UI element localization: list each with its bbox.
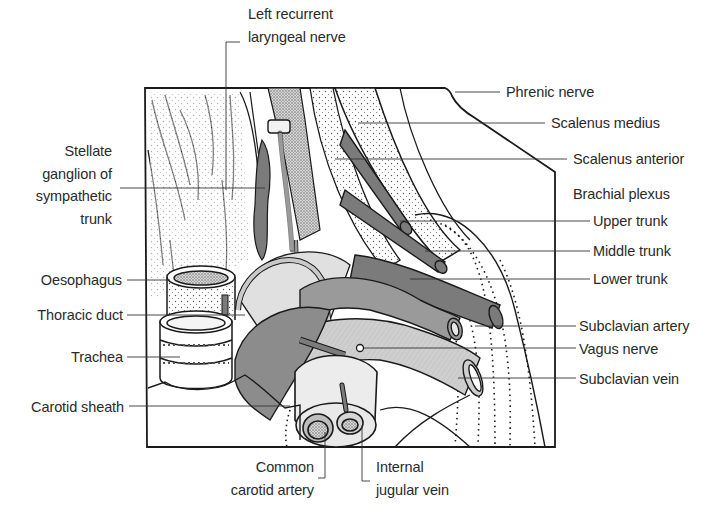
- label-line: laryngeal nerve: [248, 26, 346, 49]
- label-oesophagus: Oesophagus: [41, 269, 122, 291]
- label-trachea: Trachea: [71, 346, 123, 368]
- label-brachial-plexus: Brachial plexus: [573, 183, 670, 205]
- label-line: sympathetic: [36, 185, 112, 208]
- scalene-muscles: [310, 88, 470, 270]
- label-line: trunk: [36, 208, 112, 231]
- label-line: Left recurrent: [248, 3, 346, 26]
- label-line: ganglion of: [36, 163, 112, 186]
- label-line: Internal: [376, 456, 449, 479]
- label-line: carotid artery: [231, 479, 314, 502]
- trachea-shape: [160, 311, 232, 389]
- anatomy-figure: Left recurrent laryngeal nerve Stellate …: [0, 0, 710, 523]
- label-left-recurrent-laryngeal-nerve: Left recurrent laryngeal nerve: [248, 3, 346, 48]
- label-line: jugular vein: [376, 479, 449, 502]
- label-internal-jugular-vein: Internal jugular vein: [376, 456, 449, 501]
- label-carotid-sheath: Carotid sheath: [31, 396, 124, 418]
- label-upper-trunk: Upper trunk: [593, 210, 668, 232]
- label-scalenus-anterior: Scalenus anterior: [573, 148, 684, 170]
- label-common-carotid-artery: Common carotid artery: [231, 456, 314, 501]
- thoracic-duct-shape: [222, 295, 228, 315]
- label-line: Common: [231, 456, 314, 479]
- label-thoracic-duct: Thoracic duct: [37, 304, 123, 326]
- label-lower-trunk: Lower trunk: [593, 268, 668, 290]
- label-subclavian-artery: Subclavian artery: [579, 315, 689, 337]
- carotid-sheath-shape: [295, 356, 377, 448]
- label-scalenus-medius: Scalenus medius: [551, 112, 660, 134]
- label-vagus-nerve: Vagus nerve: [579, 338, 658, 360]
- label-line: Stellate: [36, 140, 112, 163]
- label-stellate-ganglion: Stellate ganglion of sympathetic trunk: [36, 140, 112, 230]
- vagus-node: [357, 345, 364, 352]
- label-subclavian-vein: Subclavian vein: [579, 368, 679, 390]
- label-middle-trunk: Middle trunk: [593, 240, 671, 262]
- label-phrenic-nerve: Phrenic nerve: [506, 81, 594, 103]
